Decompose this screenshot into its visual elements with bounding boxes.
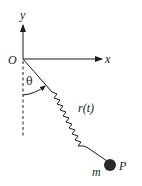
spring-bottom-segment [88,148,107,161]
spring-length-label: r(t) [78,101,94,115]
origin-label: O [8,53,17,67]
point-label: P [118,159,127,173]
mass-bob [104,159,116,171]
y-axis-label: y [19,8,26,22]
spring-pendulum-diagram: y x O θ r(t) m P [0,0,142,186]
x-axis-label: x [104,52,111,66]
angle-label: θ [26,75,33,88]
mass-label: m [92,165,101,179]
